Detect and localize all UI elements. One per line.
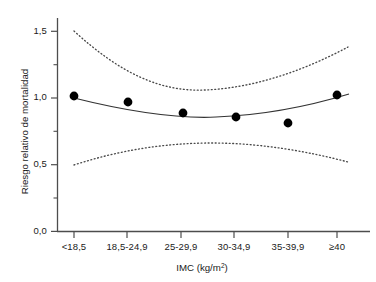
x-axis-title: IMC (kg/m2) xyxy=(57,262,347,273)
chart-plot-area xyxy=(0,0,376,282)
data-point xyxy=(284,119,293,128)
data-point xyxy=(124,98,133,107)
data-point xyxy=(333,91,342,100)
y-axis-title: Riesgo relativo de mortalidad xyxy=(19,32,30,232)
ci-upper-curve xyxy=(74,31,348,90)
x-tick-label-40-plus: ≥40 xyxy=(312,241,362,252)
data-point xyxy=(179,109,188,118)
mortality-bmi-chart: 1,5 1,0 0,5 0,0 <18,5 18,5-24,9 25-29,9 … xyxy=(0,0,376,282)
data-points xyxy=(70,91,342,128)
x-axis-major-ticks xyxy=(74,232,337,239)
data-point xyxy=(70,92,79,101)
x-axis-title-text: IMC (kg/m xyxy=(176,262,221,273)
fit-curve xyxy=(74,94,349,117)
data-point xyxy=(232,113,241,122)
x-axis-title-suffix: ) xyxy=(225,262,228,273)
ci-lower-curve xyxy=(74,143,348,165)
